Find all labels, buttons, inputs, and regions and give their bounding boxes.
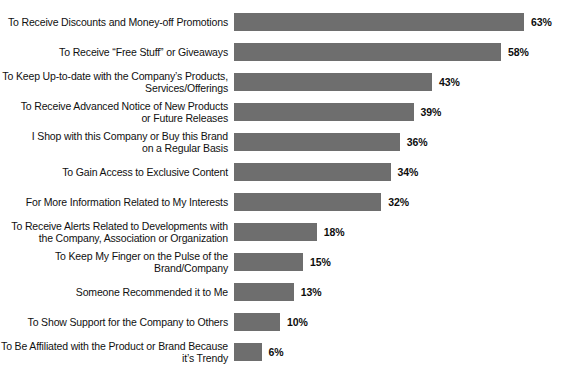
bar-value-label: 39% [421,106,442,118]
bar [234,223,317,241]
bar-value-label: 18% [324,226,345,238]
chart-row: For More Information Related to My Inter… [0,187,568,217]
bar-cell: 15% [234,247,568,277]
category-label: To Receive Discounts and Money-off Promo… [0,16,234,28]
bar [234,343,262,361]
bar [234,193,381,211]
bar [234,253,303,271]
category-label: Someone Recommended it to Me [0,286,234,298]
bar [234,13,524,31]
bar-cell: 18% [234,217,568,247]
category-label: For More Information Related to My Inter… [0,196,234,208]
bar-value-label: 34% [398,166,419,178]
bar-value-label: 36% [407,136,428,148]
bar [234,73,432,91]
bar-value-label: 15% [310,256,331,268]
chart-row: Someone Recommended it to Me13% [0,277,568,307]
chart-row: To Receive Advanced Notice of New Produc… [0,97,568,127]
bar-value-label: 32% [388,196,409,208]
category-label: To Receive Advanced Notice of New Produc… [0,100,234,124]
category-label: To Keep Up-to-date with the Company’s Pr… [0,70,234,94]
bar [234,313,280,331]
bar [234,43,501,61]
bar-value-label: 10% [287,316,308,328]
bar-value-label: 6% [269,346,284,358]
bar-cell: 34% [234,157,568,187]
category-label: To Receive “Free Stuff” or Giveaways [0,46,234,58]
bar [234,103,414,121]
chart-row: To Gain Access to Exclusive Content34% [0,157,568,187]
bar [234,133,400,151]
category-label: To Receive Alerts Related to Development… [0,220,234,244]
category-label: To Be Affiliated with the Product or Bra… [0,340,234,364]
bar-value-label: 58% [508,46,529,58]
bar-value-label: 13% [301,286,322,298]
bar-value-label: 43% [439,76,460,88]
category-label: To Keep My Finger on the Pulse of the Br… [0,250,234,274]
category-label: To Show Support for the Company to Other… [0,316,234,328]
category-label: I Shop with this Company or Buy this Bra… [0,130,234,154]
chart-row: To Receive Alerts Related to Development… [0,217,568,247]
bar-cell: 10% [234,307,568,337]
chart-row: I Shop with this Company or Buy this Bra… [0,127,568,157]
bar [234,163,391,181]
category-label: To Gain Access to Exclusive Content [0,166,234,178]
chart-row: To Receive Discounts and Money-off Promo… [0,7,568,37]
chart-row: To Be Affiliated with the Product or Bra… [0,337,568,367]
chart-row: To Show Support for the Company to Other… [0,307,568,337]
bar-cell: 39% [234,97,568,127]
bar-cell: 63% [234,7,568,37]
bar [234,283,294,301]
bar-value-label: 63% [531,16,552,28]
bar-cell: 13% [234,277,568,307]
bar-cell: 32% [234,187,568,217]
bar-cell: 43% [234,67,568,97]
horizontal-bar-chart: To Receive Discounts and Money-off Promo… [0,0,568,382]
bar-cell: 36% [234,127,568,157]
chart-row: To Keep My Finger on the Pulse of the Br… [0,247,568,277]
chart-row: To Receive “Free Stuff” or Giveaways58% [0,37,568,67]
bar-cell: 58% [234,37,568,67]
chart-row: To Keep Up-to-date with the Company’s Pr… [0,67,568,97]
bar-cell: 6% [234,337,568,367]
